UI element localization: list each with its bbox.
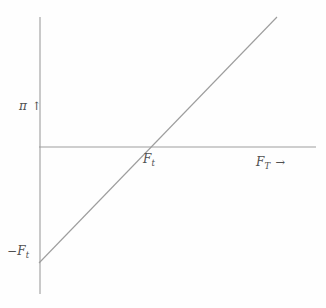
x-axis-symbol: F [256,155,265,169]
x-axis-subscript: T [265,161,271,171]
pi-symbol: π [19,99,27,113]
y-intercept-subscript: t [26,250,30,260]
right-arrow-icon: → [275,155,285,169]
x-intercept-symbol: F [143,152,152,166]
forward-payoff-figure: π↑ Ft FT→ −Ft [0,0,326,308]
x-axis-label: FT→ [256,155,285,171]
y-intercept-label: −Ft [7,244,29,260]
up-arrow-icon: ↑ [32,99,42,113]
x-intercept-subscript: t [152,158,156,168]
x-intercept-label: Ft [143,152,155,168]
payoff-line [39,17,277,263]
minus-sign: − [7,244,17,258]
y-intercept-symbol: F [17,244,26,258]
y-axis-label: π↑ [19,99,42,113]
plot-svg [0,0,326,308]
